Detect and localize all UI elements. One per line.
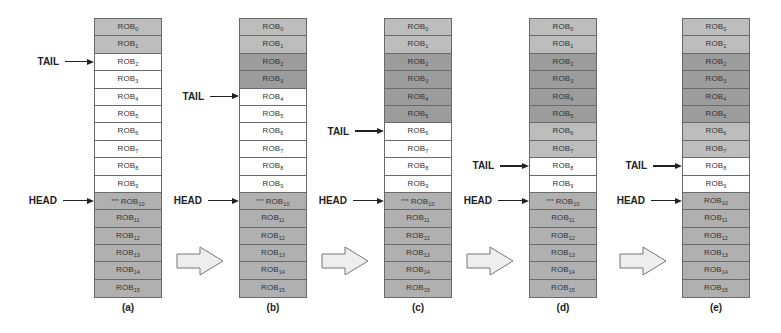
arrow-right-icon xyxy=(377,128,384,134)
rob-entry-label: ROB9 xyxy=(263,179,284,188)
panel-caption: (b) xyxy=(239,302,307,313)
rob-entry-12: ROB12 xyxy=(530,228,596,245)
rob-entry-6: ROB6 xyxy=(385,123,451,140)
rob-entry-label: ROB6 xyxy=(408,126,429,135)
arrow-line xyxy=(653,165,675,166)
arrow-right-icon xyxy=(232,93,239,99)
arrow-line xyxy=(651,200,675,201)
arrow-line xyxy=(500,165,522,166)
arrow-right-icon xyxy=(232,198,239,204)
rob-entry-label: ROB2 xyxy=(408,57,429,66)
rob-entry-13: ROB13 xyxy=(683,245,749,262)
tail-pointer: TAIL xyxy=(35,56,94,68)
rob-entry-label: ROB0 xyxy=(553,22,574,31)
head-label: HEAD xyxy=(317,195,347,206)
rob-entry-5: ROB5 xyxy=(385,106,451,123)
tail-pointer: TAIL xyxy=(325,125,384,137)
arrow-line xyxy=(208,200,232,201)
rob-entry-label: ROB2 xyxy=(706,57,727,66)
rob-entry-14: ROB14 xyxy=(530,262,596,279)
rob-entry-7: ROB7 xyxy=(240,141,306,158)
rob-entry-13: ROB13 xyxy=(95,245,161,262)
rob-entry-14: ROB14 xyxy=(95,262,161,279)
rob-entry-label: ROB0 xyxy=(706,22,727,31)
rob-entry-label: ROB3 xyxy=(118,74,139,83)
rob-entry-label: ROB4 xyxy=(408,92,429,101)
rob-entry-12: ROB12 xyxy=(683,228,749,245)
rob-entry-8: ROB8 xyxy=(683,158,749,175)
rob-entry-1: ROB1 xyxy=(530,36,596,53)
rob-entry-2: ROB2 xyxy=(385,54,451,71)
panel-caption: (d) xyxy=(529,302,597,313)
arrow-line xyxy=(498,200,522,201)
head-pointer: HEAD xyxy=(462,195,529,207)
head-pointer: HEAD xyxy=(27,195,94,207)
tail-label: TAIL xyxy=(623,160,647,171)
rob-entry-6: ROB6 xyxy=(683,123,749,140)
rob-entry-6: ROB6 xyxy=(530,123,596,140)
rob-entry-label: ROB13 xyxy=(261,248,285,257)
rob-entry-7: ROB7 xyxy=(530,141,596,158)
rob-entry-label: ROB12 xyxy=(406,231,430,240)
rob-entry-label: ROB5 xyxy=(118,109,139,118)
rob-entry-label: ROB2 xyxy=(263,57,284,66)
rob-entry-4: ROB4 xyxy=(240,89,306,106)
head-marker: *** xyxy=(111,198,118,204)
rob-entry-label: ROB13 xyxy=(116,248,140,257)
rob-entry-3: ROB3 xyxy=(385,71,451,88)
rob-column-a: ROB0ROB1ROB2ROB3ROB4ROB5ROB6ROB7ROB8ROB9… xyxy=(94,18,162,298)
rob-entry-label: ROB9 xyxy=(408,179,429,188)
rob-entry-6: ROB6 xyxy=(240,123,306,140)
rob-entry-0: ROB0 xyxy=(530,19,596,36)
rob-entry-4: ROB4 xyxy=(530,89,596,106)
rob-entry-7: ROB7 xyxy=(683,141,749,158)
rob-entry-4: ROB4 xyxy=(385,89,451,106)
arrow-line xyxy=(63,200,87,201)
rob-entry-label: ROB4 xyxy=(553,92,574,101)
rob-entry-label: ROB15 xyxy=(116,283,140,292)
rob-entry-label: ROB9 xyxy=(706,179,727,188)
rob-entry-12: ROB12 xyxy=(240,228,306,245)
transition-arrow-icon xyxy=(321,246,369,276)
rob-entry-15: ROB15 xyxy=(95,280,161,297)
tail-pointer: TAIL xyxy=(470,160,529,172)
rob-entry-label: ROB12 xyxy=(551,231,575,240)
rob-entry-14: ROB14 xyxy=(240,262,306,279)
rob-entry-label: ROB7 xyxy=(706,144,727,153)
rob-entry-0: ROB0 xyxy=(240,19,306,36)
rob-entry-8: ROB8 xyxy=(385,158,451,175)
rob-entry-15: ROB15 xyxy=(683,280,749,297)
transition-arrow-icon xyxy=(619,246,667,276)
rob-entry-0: ROB0 xyxy=(683,19,749,36)
rob-entry-label: ROB8 xyxy=(263,161,284,170)
rob-entry-label: ROB11 xyxy=(551,213,575,222)
rob-entry-label: ROB2 xyxy=(553,57,574,66)
rob-entry-8: ROB8 xyxy=(240,158,306,175)
panel-caption: (a) xyxy=(94,302,162,313)
rob-entry-10: ***ROB10 xyxy=(240,193,306,210)
arrow-right-icon xyxy=(522,198,529,204)
rob-entry-label: ROB12 xyxy=(261,231,285,240)
rob-entry-14: ROB14 xyxy=(385,262,451,279)
rob-entry-label: ROB0 xyxy=(118,22,139,31)
rob-entry-label: ROB1 xyxy=(706,39,727,48)
rob-entry-label: ROB12 xyxy=(704,231,728,240)
rob-entry-10: ***ROB10 xyxy=(530,193,596,210)
rob-column-d: ROB0ROB1ROB2ROB3ROB4ROB5ROB6ROB7ROB8ROB9… xyxy=(529,18,597,298)
rob-entry-label: ROB13 xyxy=(551,248,575,257)
tail-label: TAIL xyxy=(325,126,349,137)
rob-entry-label: ROB0 xyxy=(408,22,429,31)
rob-entry-label: ROB7 xyxy=(118,144,139,153)
rob-entry-1: ROB1 xyxy=(683,36,749,53)
head-label: HEAD xyxy=(27,195,57,206)
rob-entry-4: ROB4 xyxy=(95,89,161,106)
rob-entry-2: ROB2 xyxy=(95,54,161,71)
rob-entry-13: ROB13 xyxy=(530,245,596,262)
rob-entry-label: ROB15 xyxy=(704,283,728,292)
rob-entry-13: ROB13 xyxy=(385,245,451,262)
rob-entry-label: ROB14 xyxy=(261,265,285,274)
panel-caption: (c) xyxy=(384,302,452,313)
rob-entry-label: ROB15 xyxy=(406,283,430,292)
rob-entry-label: ROB0 xyxy=(263,22,284,31)
rob-entry-label: ROB13 xyxy=(406,248,430,257)
